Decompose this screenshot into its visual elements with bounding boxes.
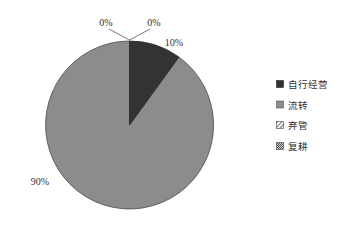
pie-slices (46, 41, 214, 209)
legend-item-abandoned[interactable]: 弃管 (277, 120, 309, 131)
legend: 自行经营 流转 弃管 复耕 (277, 79, 329, 152)
legend-label-transferred: 流转 (288, 100, 308, 111)
legend-item-transferred[interactable]: 流转 (277, 100, 309, 111)
leader-lines (109, 29, 150, 40)
legend-swatch-solid-grey-icon (277, 101, 284, 108)
label-transferred: 90% (31, 176, 49, 187)
legend-item-recultivated[interactable]: 复耕 (277, 141, 309, 152)
legend-swatch-solid-dark-icon (277, 81, 284, 88)
legend-label-self-operated: 自行经营 (288, 79, 328, 90)
legend-swatch-hatch-icon (277, 122, 284, 129)
label-self-operated: 10% (165, 37, 183, 48)
leader-line-abandoned (109, 29, 130, 40)
legend-label-abandoned: 弃管 (288, 120, 308, 131)
legend-swatch-checker-icon (277, 143, 284, 150)
pie-chart: 0% 0% 10% 90% 自行经营 流转 弃管 复耕 (0, 0, 353, 226)
label-recultivated: 0% (147, 17, 160, 28)
legend-item-self-operated[interactable]: 自行经营 (277, 79, 329, 90)
legend-label-recultivated: 复耕 (288, 141, 308, 152)
leader-line-recultivated (130, 29, 151, 40)
label-abandoned: 0% (99, 17, 112, 28)
